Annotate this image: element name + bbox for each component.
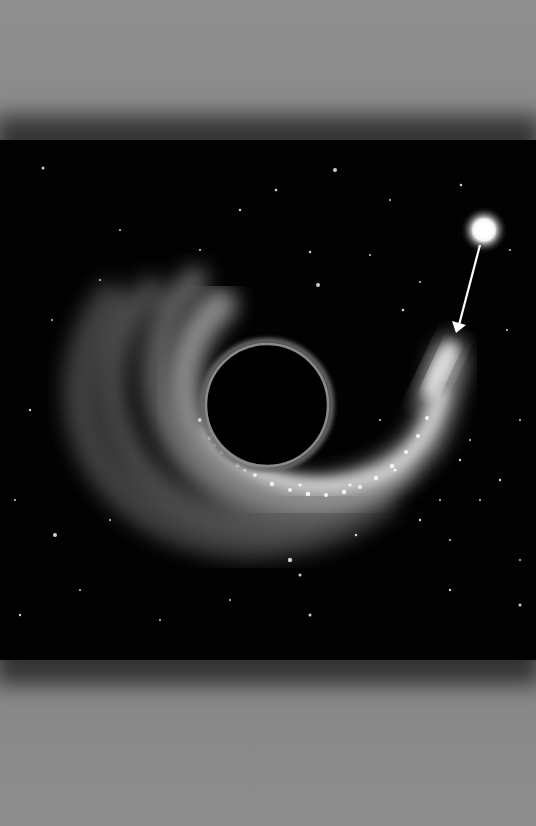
star xyxy=(474,220,494,240)
black-hole-illustration xyxy=(0,0,536,826)
illustration-svg xyxy=(0,0,536,826)
arrow-icon xyxy=(452,245,480,333)
event-horizon xyxy=(207,345,327,465)
